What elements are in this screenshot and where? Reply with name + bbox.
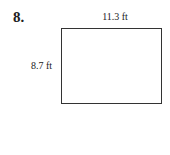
- rectangle-figure: [61, 28, 162, 104]
- problem-number: 8.: [13, 9, 24, 26]
- width-label: 11.3 ft: [95, 11, 135, 22]
- height-label: 8.7 ft: [31, 60, 52, 71]
